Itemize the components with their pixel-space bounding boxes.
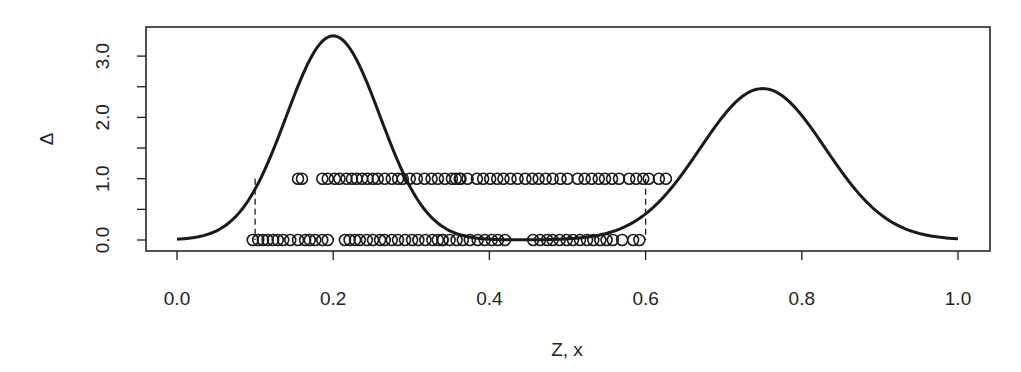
data-point: [660, 173, 671, 184]
density-curve: [177, 36, 958, 240]
x-tick-label: 0.0: [164, 288, 190, 309]
x-tick-label: 1.0: [945, 288, 971, 309]
chart-canvas: 0.00.20.40.60.81.0 0.01.02.03.0 Z, x Δ: [0, 0, 1021, 372]
x-axis: 0.00.20.40.60.81.0: [164, 251, 971, 309]
y-tick-label: 1.0: [92, 165, 113, 191]
x-tick-label: 0.6: [632, 288, 658, 309]
points-row-delta-1: [293, 173, 672, 184]
y-tick-label: 3.0: [92, 43, 113, 69]
y-tick-label: 0.0: [92, 227, 113, 253]
y-axis-label: Δ: [36, 132, 57, 145]
data-point: [614, 173, 625, 184]
y-tick-label: 2.0: [92, 104, 113, 130]
y-axis: 0.01.02.03.0: [92, 43, 146, 253]
x-axis-label: Z, x: [551, 339, 583, 360]
x-tick-label: 0.4: [476, 288, 503, 309]
plot-frame: [146, 27, 990, 251]
x-tick-label: 0.8: [789, 288, 815, 309]
data-point: [562, 173, 573, 184]
x-tick-label: 0.2: [320, 288, 346, 309]
